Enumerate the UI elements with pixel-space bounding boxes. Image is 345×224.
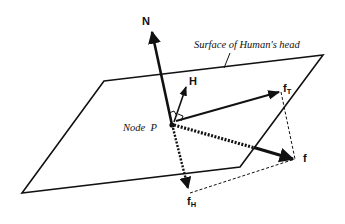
label-fT: fT: [283, 83, 291, 96]
label-N: N: [142, 16, 150, 27]
vector-N-arrow: [152, 32, 172, 125]
label-H: H: [189, 76, 197, 87]
vector-fT-arrow: [176, 92, 279, 121]
node-P-point: [169, 122, 174, 127]
vector-fH-arrow: [173, 128, 188, 188]
label-fT-subscript: T: [287, 87, 292, 96]
force-decomposition-diagram: N H fT f fH Node P Surface of Human's he…: [0, 0, 345, 224]
label-f: f: [303, 153, 307, 164]
diagram-graphics: [0, 0, 345, 224]
label-fH: fH: [187, 196, 196, 209]
label-node-P: Node P: [123, 123, 157, 134]
label-fH-subscript: H: [191, 200, 196, 209]
vector-f-dotted: [174, 125, 255, 148]
label-surface: Surface of Human's head: [194, 40, 300, 51]
vector-f-arrow: [254, 148, 293, 160]
vector-H-arrow: [174, 87, 186, 122]
